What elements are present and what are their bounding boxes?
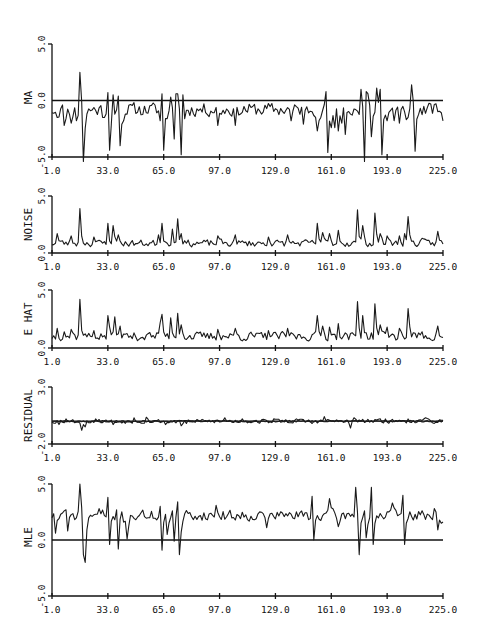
x-tick-label: 65.0	[152, 604, 175, 615]
x-tick-label: 161.0	[317, 604, 346, 615]
x-tick-label: 161.0	[317, 356, 346, 367]
y-tick-label: 3.0	[36, 378, 47, 395]
y-tick-label: 5.0	[36, 35, 47, 52]
x-tick-label: 65.0	[152, 261, 175, 272]
x-tick-label: 33.0	[96, 165, 119, 176]
y-axis-label: MLE	[22, 527, 35, 547]
y-axis-label: E HAT	[22, 302, 35, 335]
x-tick-label: 161.0	[317, 261, 346, 272]
y-axis-label: NOISE	[22, 208, 35, 241]
x-tick-label: 161.0	[317, 452, 346, 463]
x-tick-label: 65.0	[152, 356, 175, 367]
x-tick-label: 33.0	[96, 452, 119, 463]
x-tick-label: 97.0	[208, 452, 231, 463]
x-tick-label: 193.0	[373, 165, 402, 176]
panel-noise: 1.033.065.097.0129.0161.0193.0225.00.05.…	[22, 187, 458, 272]
x-tick-label: 33.0	[96, 604, 119, 615]
data-series-line	[52, 72, 443, 161]
x-tick-label: 225.0	[429, 261, 458, 272]
x-tick-label: 97.0	[208, 261, 231, 272]
x-tick-label: 225.0	[429, 165, 458, 176]
y-tick-label: 0.0	[36, 339, 47, 356]
x-tick-label: 1.0	[43, 261, 60, 272]
x-tick-label: 1.0	[43, 356, 60, 367]
x-tick-label: 129.0	[261, 452, 290, 463]
panel-mle: 1.033.065.097.0129.0161.0193.0225.0-5.00…	[22, 475, 458, 615]
y-tick-label: 0.0	[36, 244, 47, 261]
y-tick-label: -2.0	[36, 432, 47, 455]
data-series-line	[52, 484, 443, 562]
x-tick-label: 193.0	[373, 452, 402, 463]
x-tick-label: 129.0	[261, 356, 290, 367]
x-tick-label: 193.0	[373, 356, 402, 367]
x-tick-label: 97.0	[208, 356, 231, 367]
y-tick-label: 0.0	[36, 92, 47, 109]
y-tick-label: 0.0	[36, 531, 47, 548]
panel-e-hat: 1.033.065.097.0129.0161.0193.0225.00.05.…	[22, 281, 458, 367]
x-tick-label: 33.0	[96, 261, 119, 272]
panel-ma: 1.033.065.097.0129.0161.0193.0225.0-5.00…	[22, 35, 458, 176]
x-tick-label: 97.0	[208, 165, 231, 176]
y-axis-label: MA	[22, 91, 35, 105]
x-tick-label: 193.0	[373, 604, 402, 615]
x-tick-label: 129.0	[261, 261, 290, 272]
x-tick-label: 225.0	[429, 604, 458, 615]
y-tick-label: 5.0	[36, 475, 47, 492]
x-tick-label: 161.0	[317, 165, 346, 176]
x-tick-label: 193.0	[373, 261, 402, 272]
data-series-line	[52, 417, 443, 431]
x-tick-label: 129.0	[261, 165, 290, 176]
x-tick-label: 65.0	[152, 165, 175, 176]
x-tick-label: 33.0	[96, 356, 119, 367]
data-series-line	[52, 299, 443, 341]
panel-residual: 1.033.065.097.0129.0161.0193.0225.0-2.03…	[22, 378, 458, 463]
y-tick-label: 5.0	[36, 281, 47, 298]
x-tick-label: 129.0	[261, 604, 290, 615]
y-tick-label: 5.0	[36, 187, 47, 204]
x-tick-label: 97.0	[208, 604, 231, 615]
stacked-time-series-figure: 1.033.065.097.0129.0161.0193.0225.0-5.00…	[0, 0, 485, 644]
x-tick-label: 225.0	[429, 452, 458, 463]
data-series-line	[52, 209, 443, 247]
y-tick-label: -5.0	[36, 145, 47, 168]
x-tick-label: 65.0	[152, 452, 175, 463]
y-axis-label: RESIDUAL	[22, 389, 35, 442]
y-tick-label: -5.0	[36, 584, 47, 607]
x-tick-label: 225.0	[429, 356, 458, 367]
